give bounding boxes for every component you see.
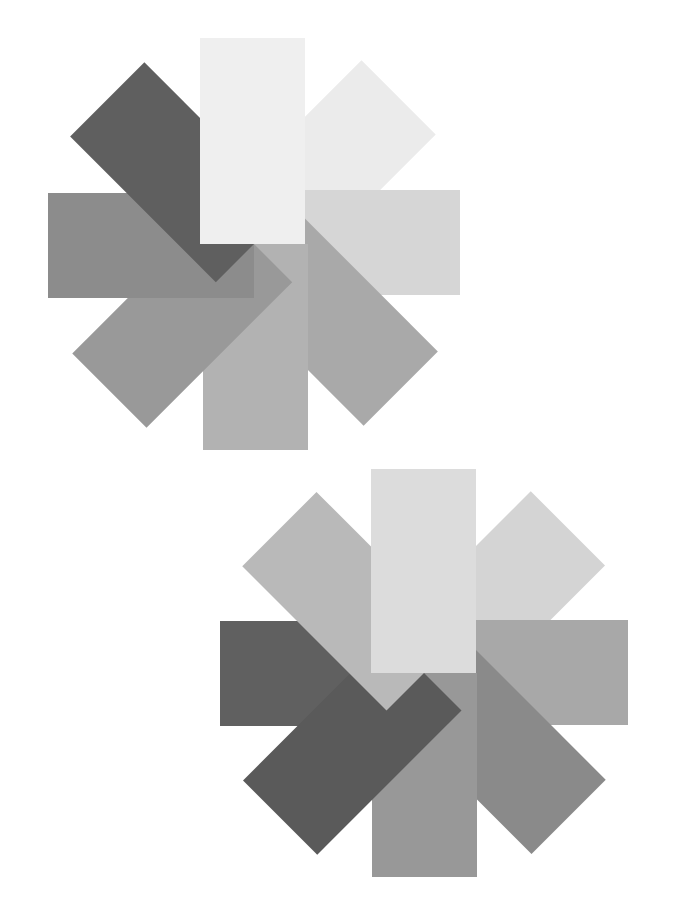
pinwheel-top-figure [48,38,460,450]
pinwheel-bottom-figure [220,469,628,877]
pinwheel-top-blade-0 [200,38,305,244]
pinwheel-bottom-blade-0 [371,469,476,673]
artwork-canvas [0,0,683,917]
